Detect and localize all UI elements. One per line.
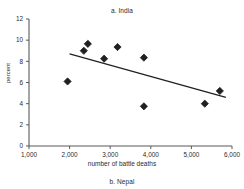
y-tick-label: 0	[19, 142, 23, 149]
y-tick-layer: 024681012	[16, 15, 29, 149]
trendline	[70, 54, 226, 97]
y-tick-label: 8	[19, 58, 23, 65]
data-point-marker	[114, 43, 121, 50]
data-point-marker	[201, 100, 208, 107]
y-tick-label: 10	[16, 36, 24, 43]
y-tick-label: 2	[19, 121, 23, 128]
data-point-marker	[216, 87, 223, 94]
data-point-marker	[80, 47, 87, 54]
x-tick-label: 5,000	[183, 151, 199, 158]
chart-figure: a. India percent number of battle deaths…	[0, 0, 244, 189]
next-panel-title: b. Nepal	[0, 178, 244, 185]
data-point-marker	[101, 55, 108, 62]
data-point-marker	[64, 78, 71, 85]
data-point-marker	[84, 40, 91, 47]
axis-layer	[29, 19, 232, 146]
x-tick-label: 4,000	[143, 151, 159, 158]
x-tick-label: 2,000	[62, 151, 78, 158]
x-tick-label: 6,000	[224, 151, 240, 158]
trendline-layer	[70, 54, 226, 97]
y-tick-label: 12	[16, 15, 24, 22]
data-point-marker	[140, 103, 147, 110]
x-tick-label: 3,000	[102, 151, 118, 158]
scatter-plot-area: 024681012 1,0002,0003,0004,0005,0006,000	[0, 0, 244, 189]
x-tick-layer: 1,0002,0003,0004,0005,0006,000	[21, 146, 240, 158]
data-point-marker	[140, 54, 147, 61]
y-tick-label: 4	[19, 100, 23, 107]
y-tick-label: 6	[19, 79, 23, 86]
x-tick-label: 1,000	[21, 151, 37, 158]
